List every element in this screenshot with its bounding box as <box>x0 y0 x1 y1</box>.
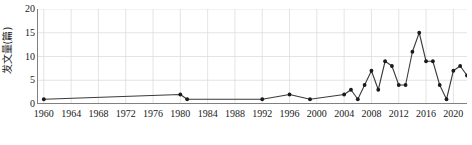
gridlines <box>37 9 467 104</box>
y-axis-tick-labels: 05101520 <box>11 0 35 145</box>
series-line <box>44 33 467 100</box>
x-tick-label-2020: 2020 <box>433 108 472 120</box>
y-tick-label-5: 5 <box>13 75 35 85</box>
series-markers <box>42 31 467 101</box>
y-tick-label-10: 10 <box>13 52 35 62</box>
y-tick-label-15: 15 <box>13 28 35 38</box>
y-tick-label-20: 20 <box>13 4 35 14</box>
plot-area <box>37 9 467 104</box>
chart-canvas <box>37 9 467 104</box>
publication-count-line-chart: 发文量(篇) 05101520 196019641968197219761980… <box>0 0 472 145</box>
x-axis-tick-labels: 1960196419681972197619801984198819921996… <box>37 108 467 124</box>
